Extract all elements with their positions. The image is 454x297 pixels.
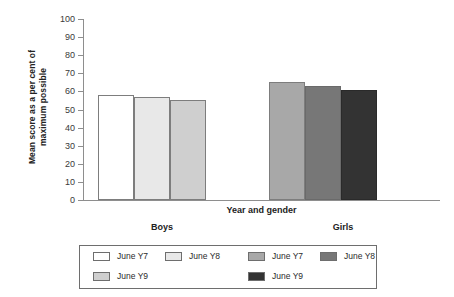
y-axis-title: Mean score as a per cent of maximum poss… [27, 17, 49, 197]
bars-container [84, 19, 440, 200]
legend-item-label: June Y9 [117, 271, 148, 281]
y-axis-tick-mark [78, 182, 83, 183]
y-axis-tick-mark [78, 164, 83, 165]
legend-swatch-icon [248, 252, 265, 261]
legend-item-label: June Y8 [189, 251, 220, 261]
legend-swatch-icon [248, 272, 265, 281]
y-axis-tick-label: 100 [60, 14, 75, 24]
x-axis-line [83, 200, 440, 201]
y-axis-tick-mark [78, 110, 83, 111]
legend-item-label: June Y7 [272, 251, 303, 261]
bar-boys-june-y9 [170, 100, 206, 200]
y-axis-title-line-2: maximum possible [38, 17, 49, 197]
legend-item-label: June Y9 [272, 271, 303, 281]
legend-item: June Y9 [93, 271, 148, 281]
bar-chart: Mean score as a per cent of maximum poss… [0, 0, 454, 297]
legend-item: June Y8 [165, 251, 220, 261]
y-axis-tick-mark [78, 37, 83, 38]
x-axis-title: Year and gender [83, 205, 440, 215]
legend-item-label: June Y8 [344, 251, 375, 261]
legend-item: June Y7 [248, 251, 303, 261]
y-axis-tick-mark [78, 55, 83, 56]
y-axis-tick-mark [78, 146, 83, 147]
y-axis-tick-label: 70 [65, 68, 75, 78]
bar-boys-june-y8 [134, 97, 170, 200]
bar-boys-june-y7 [98, 95, 134, 200]
bar-girls-june-y8 [305, 86, 341, 200]
y-axis-title-line-1: Mean score as a per cent of [27, 17, 38, 197]
y-axis-tick-label: 50 [65, 105, 75, 115]
y-axis-tick-mark [78, 200, 83, 201]
y-axis-tick-label: 40 [65, 123, 75, 133]
y-axis-tick-label: 20 [65, 159, 75, 169]
bar-girls-june-y9 [341, 90, 377, 200]
y-axis-tick-mark [78, 128, 83, 129]
y-axis-tick-mark [78, 91, 83, 92]
y-axis-tick-label: 30 [65, 141, 75, 151]
group-label-girls: Girls [303, 222, 383, 232]
y-axis-tick-label: 60 [65, 86, 75, 96]
y-axis-tick-mark [78, 73, 83, 74]
y-axis-tick-label: 90 [65, 32, 75, 42]
plot-area: 1009080706050403020100 [83, 19, 440, 201]
legend-item: June Y7 [93, 251, 148, 261]
legend-swatch-icon [320, 252, 337, 261]
y-axis-tick-mark [78, 19, 83, 20]
legend-swatch-icon [165, 252, 182, 261]
y-axis-tick-label: 0 [70, 195, 75, 205]
group-label-boys: Boys [122, 222, 202, 232]
legend-swatch-icon [93, 272, 110, 281]
legend-item: June Y8 [320, 251, 375, 261]
y-axis-tick-label: 10 [65, 177, 75, 187]
legend-item: June Y9 [248, 271, 303, 281]
bar-girls-june-y7 [269, 82, 305, 200]
legend-swatch-icon [93, 252, 110, 261]
legend-item-label: June Y7 [117, 251, 148, 261]
y-axis-tick-label: 80 [65, 50, 75, 60]
